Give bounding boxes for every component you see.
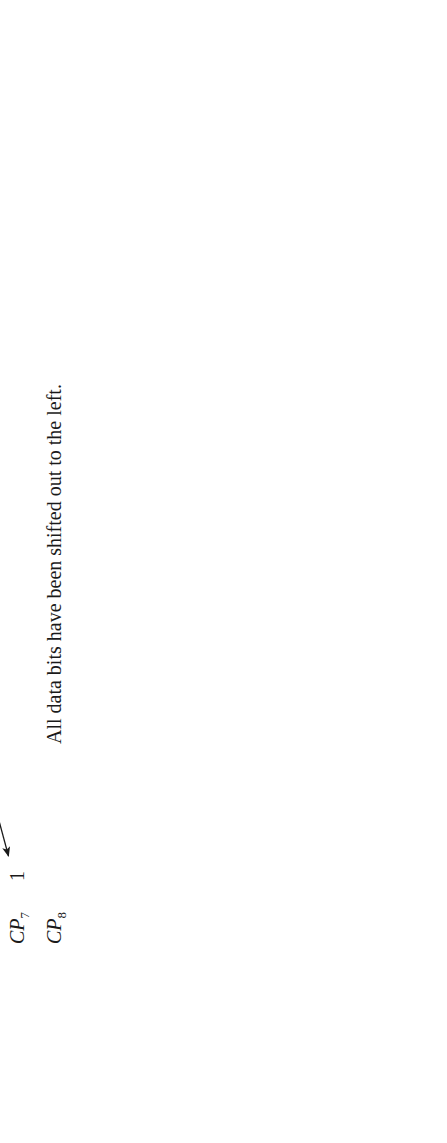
shift-arrow (0, 780, 9, 856)
figure-canvas: State of register Q1Q2Q3Q4Q5Q6Q7Q8 Origi… (0, 0, 99, 1044)
shift-register-state-table: State of register Q1Q2Q3Q4Q5Q6Q7Q8 Origi… (0, 0, 99, 1044)
figure-note: All data bits have been shifted out to t… (43, 384, 66, 744)
figure-rotated-wrapper: State of register Q1Q2Q3Q4Q5Q6Q7Q8 Origi… (0, 0, 447, 1143)
